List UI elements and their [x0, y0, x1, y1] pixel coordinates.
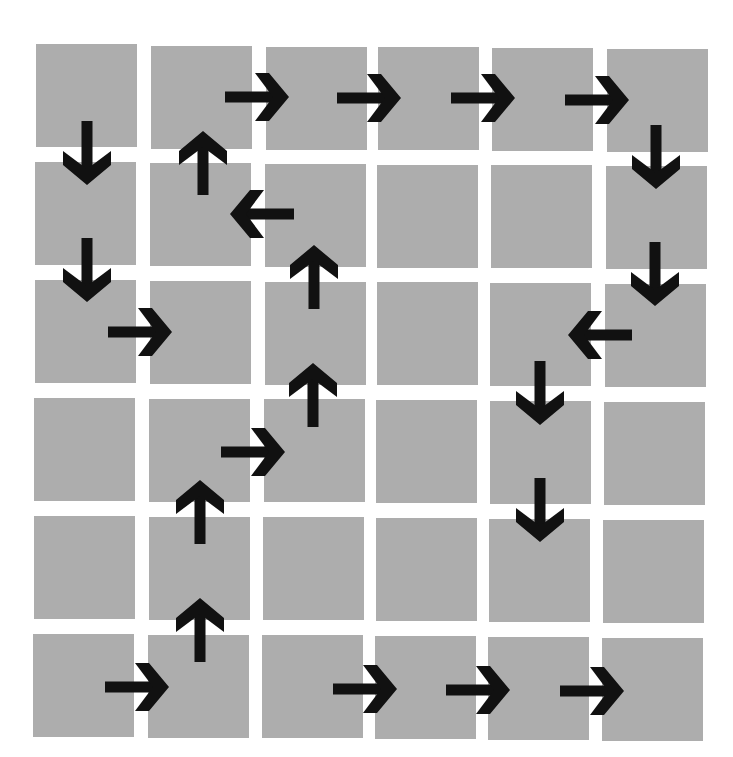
grid-cell-r1-c3 — [377, 165, 478, 268]
arrow-right-icon — [223, 63, 291, 131]
grid-cell-r2-c3 — [377, 282, 478, 385]
grid-cell-r4-c2 — [263, 517, 364, 620]
arrow-path-grid — [0, 0, 733, 757]
arrow-down-icon — [622, 123, 690, 191]
grid-cell-r3-c5 — [604, 402, 705, 505]
arrow-up-icon — [279, 361, 347, 429]
grid-cell-r4-c5 — [603, 520, 704, 623]
arrow-down-icon — [53, 236, 121, 304]
arrow-down-icon — [506, 359, 574, 427]
grid-cell-r4-c0 — [34, 516, 135, 619]
arrow-right-icon — [106, 298, 174, 366]
arrow-right-icon — [103, 653, 171, 721]
grid-cell-r4-c3 — [376, 518, 477, 621]
arrow-up-icon — [166, 596, 234, 664]
arrow-right-icon — [563, 66, 631, 134]
arrow-right-icon — [331, 655, 399, 723]
arrow-left-icon — [228, 180, 296, 248]
arrow-left-icon — [566, 301, 634, 369]
arrow-up-icon — [166, 478, 234, 546]
grid-cell-r1-c4 — [491, 165, 592, 268]
arrow-right-icon — [444, 656, 512, 724]
arrow-down-icon — [53, 119, 121, 187]
arrow-right-icon — [335, 64, 403, 132]
arrow-right-icon — [449, 64, 517, 132]
arrow-up-icon — [280, 243, 348, 311]
arrow-right-icon — [219, 418, 287, 486]
arrow-down-icon — [506, 476, 574, 544]
arrow-down-icon — [621, 240, 689, 308]
arrow-right-icon — [558, 657, 626, 725]
grid-cell-r3-c3 — [376, 400, 477, 503]
grid-cell-r3-c0 — [34, 398, 135, 501]
arrow-up-icon — [169, 129, 237, 197]
